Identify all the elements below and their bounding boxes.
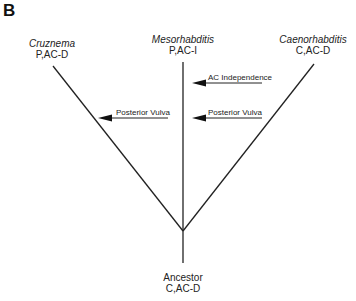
taxon-label-cruznema: Cruznema P,AC-D (29, 38, 75, 60)
branch-cruznema (53, 66, 183, 231)
taxon-state: P,AC-D (29, 49, 75, 60)
event-label-ac-independence: AC Independence (208, 73, 272, 82)
event-label-posterior-vulva-meso: Posterior Vulva (208, 108, 262, 117)
taxon-label-caenorhabditis: Caenorhabditis C,AC-D (279, 34, 346, 56)
taxon-name: Caenorhabditis (279, 34, 346, 45)
event-label-posterior-vulva-cruz: Posterior Vulva (116, 108, 170, 117)
taxon-name: Cruznema (29, 38, 75, 49)
taxon-label-ancestor: Ancestor C,AC-D (163, 272, 202, 294)
taxon-name: Ancestor (163, 272, 202, 283)
taxon-state: C,AC-D (279, 45, 346, 56)
taxon-state: P,AC-I (152, 45, 214, 56)
taxon-state: C,AC-D (163, 283, 202, 294)
taxon-label-mesorhabditis: Mesorhabditis P,AC-I (152, 34, 214, 56)
taxon-name: Mesorhabditis (152, 34, 214, 45)
branch-caenorhabditis (183, 64, 314, 231)
